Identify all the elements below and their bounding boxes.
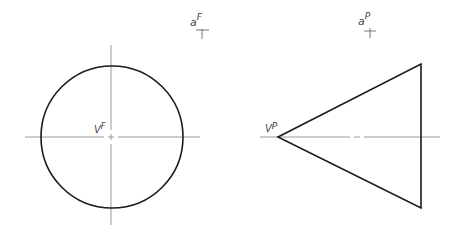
profile-triangle (278, 64, 421, 208)
profile-view: VP aP (260, 11, 440, 208)
front-view: VF aF (25, 12, 209, 225)
profile-point-marker (364, 28, 376, 38)
profile-point-label: aP (358, 11, 371, 28)
front-vanishing-label: VF (94, 122, 106, 135)
projection-diagram: VF aF VP aP (0, 0, 455, 237)
front-point-marker (196, 29, 209, 39)
profile-vanishing-label: VP (265, 121, 278, 134)
front-point-label: aF (190, 12, 203, 29)
